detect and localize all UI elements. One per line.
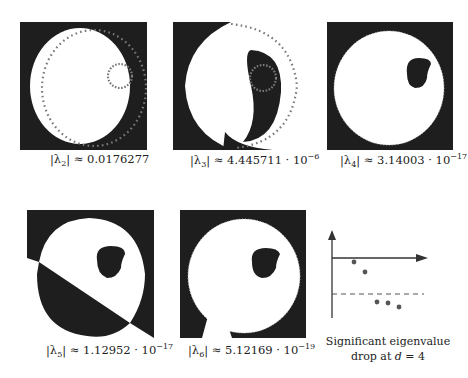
eigenvalue-caption-6: |λ6| ≈ 5.12169 · 10−19 — [188, 342, 315, 359]
eigenfunction-plot-2 — [20, 22, 147, 150]
eigenfunction-plot-3 — [173, 22, 303, 150]
caption-lambda: |λ — [190, 153, 201, 167]
eigenvalue-drop-plot — [320, 228, 430, 320]
note-prefix: drop at — [351, 350, 395, 363]
caption-value: | ≈ 3.14003 · 10 — [356, 153, 450, 167]
caption-lambda: |λ — [46, 343, 57, 357]
eigenvalue-caption-3: |λ3| ≈ 4.445711 · 10−6 — [190, 152, 319, 169]
data-point — [397, 305, 402, 310]
eigenvalue-caption-2: |λ2| ≈ 0.0176277 — [50, 152, 149, 168]
eigenfunction-panel-5 — [27, 210, 154, 338]
eigenfunction-panel-6 — [180, 210, 306, 338]
y-axis-arrow-icon — [328, 230, 336, 240]
caption-lambda: |λ — [50, 152, 61, 166]
caption-exponent: −6 — [308, 152, 320, 161]
caption-exponent: −17 — [156, 342, 173, 351]
eigenvalue-caption-5: |λ5| ≈ 1.12952 · 10−17 — [46, 342, 173, 359]
x-axis-arrow-icon — [416, 254, 428, 262]
caption-exponent: −17 — [450, 152, 467, 161]
eigenvalue-drop-chart — [320, 228, 430, 320]
data-point — [352, 260, 357, 265]
eigenfunction-plot-4 — [327, 22, 453, 150]
caption-value: | ≈ 4.445711 · 10 — [206, 153, 307, 167]
eigenfunction-plot-6 — [180, 210, 306, 338]
eigenfunction-panel-4 — [327, 22, 453, 150]
caption-exponent: −19 — [298, 342, 315, 351]
eigenfunction-plot-5 — [27, 210, 154, 338]
eigenfunction-panel-3 — [173, 22, 303, 150]
data-point — [375, 300, 380, 305]
note-line-1: Significant eigenvalue — [318, 334, 458, 349]
caption-value: | ≈ 1.12952 · 10 — [62, 343, 156, 357]
caption-lambda: |λ — [188, 343, 199, 357]
eigenfunction-panel-2 — [20, 22, 147, 150]
caption-value: | ≈ 5.12169 · 10 — [204, 343, 298, 357]
eigenvalue-caption-4: |λ4| ≈ 3.14003 · 10−17 — [340, 152, 467, 169]
data-point — [386, 301, 391, 306]
caption-lambda: |λ — [340, 153, 351, 167]
data-point — [363, 270, 368, 275]
note-line-2: drop at d = 4 — [318, 349, 458, 364]
eigenvalue-drop-note: Significant eigenvalue drop at d = 4 — [318, 334, 458, 364]
note-suffix: = 4 — [402, 350, 425, 363]
caption-value: | ≈ 0.0176277 — [66, 152, 149, 166]
note-variable: d — [395, 350, 402, 363]
